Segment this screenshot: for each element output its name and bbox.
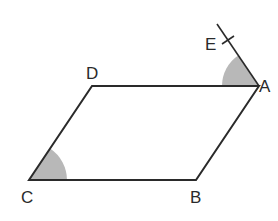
label-a: A: [259, 77, 271, 96]
label-e: E: [205, 35, 216, 54]
label-b: B: [190, 188, 201, 207]
label-c: C: [21, 188, 33, 207]
parallelogram-diagram: E D A C B: [0, 0, 278, 221]
point-e-tick: [222, 36, 234, 44]
label-d: D: [86, 64, 98, 83]
